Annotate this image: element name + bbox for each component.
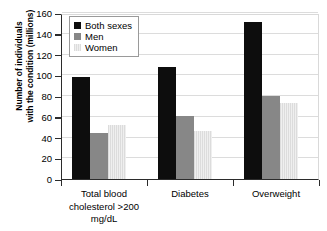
x-axis-category-label: Overweight	[233, 188, 319, 201]
y-axis-tick-label: 60	[12, 113, 52, 123]
chart-legend: Both sexes Men Women	[69, 16, 139, 57]
x-axis-tick	[319, 180, 320, 186]
y-axis-tick-label: 40	[12, 134, 52, 144]
y-axis-tick-label: 120	[12, 51, 52, 61]
x-axis-tick	[61, 180, 62, 186]
y-axis-tick-label: 80	[12, 92, 52, 102]
legend-swatch-both-sexes	[74, 22, 81, 29]
bar	[244, 22, 262, 179]
x-axis-category-label: Total bloodcholesterol >200mg/dL	[61, 188, 147, 226]
bar	[262, 96, 280, 179]
x-axis-category-label-line: Diabetes	[147, 188, 233, 201]
legend-item-men: Men	[74, 31, 132, 42]
y-axis-tick-label: 160	[12, 9, 52, 19]
bar	[90, 133, 108, 179]
y-axis-tick-label: 0	[12, 175, 52, 185]
legend-label-men: Men	[85, 32, 103, 42]
legend-swatch-women	[74, 44, 81, 51]
x-axis-category-label: Diabetes	[147, 188, 233, 201]
bar	[176, 116, 194, 179]
y-axis-tick-label: 140	[12, 30, 52, 40]
bar	[280, 103, 298, 179]
legend-item-both-sexes: Both sexes	[74, 20, 132, 31]
x-axis-category-label-line: Total blood	[61, 188, 147, 201]
legend-swatch-men	[74, 33, 81, 40]
legend-label-women: Women	[85, 43, 118, 53]
x-axis-tick	[147, 180, 148, 186]
x-axis-category-label-line: Overweight	[233, 188, 319, 201]
bar	[72, 77, 90, 179]
bar	[194, 131, 212, 179]
legend-label-both-sexes: Both sexes	[85, 21, 132, 31]
gridline	[62, 74, 318, 75]
x-axis-category-label-line: mg/dL	[61, 213, 147, 226]
legend-item-women: Women	[74, 42, 132, 53]
y-axis-tick-label: 100	[12, 71, 52, 81]
x-axis-tick	[233, 180, 234, 186]
gridline	[62, 12, 318, 13]
bar-chart: Number of individuals with the condition…	[0, 0, 327, 231]
bar	[158, 67, 176, 179]
y-axis-tick-label: 20	[12, 154, 52, 164]
x-axis-category-label-line: cholesterol >200	[61, 201, 147, 214]
bar	[108, 125, 126, 179]
